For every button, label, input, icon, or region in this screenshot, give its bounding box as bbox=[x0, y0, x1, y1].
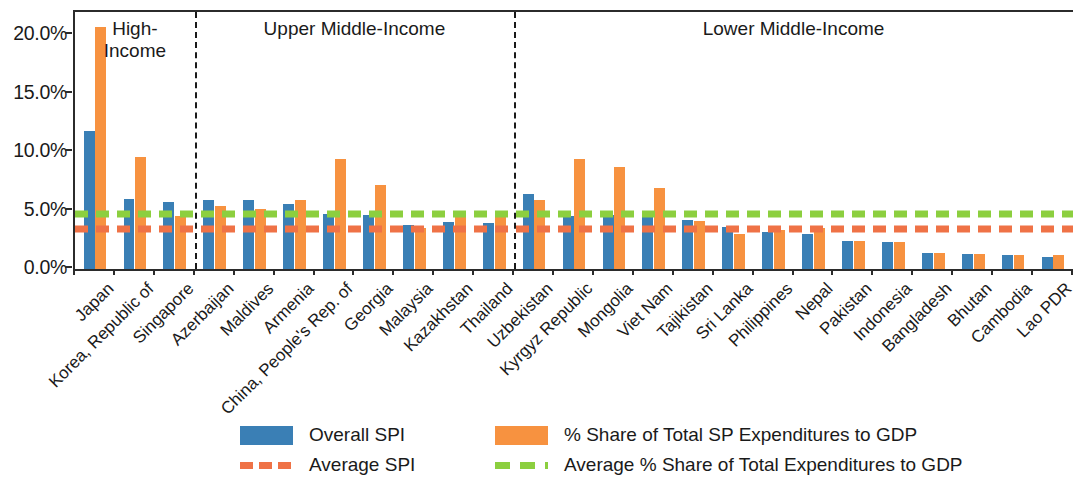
y-axis-tick-label: 5.0% bbox=[24, 197, 67, 220]
bar-overall-spi bbox=[762, 232, 773, 269]
bar-share-expenditures bbox=[734, 234, 745, 269]
x-axis-tick-mark bbox=[153, 269, 155, 275]
bar-overall-spi bbox=[603, 215, 614, 269]
y-axis-tick-label: 15.0% bbox=[13, 80, 67, 103]
chart-legend: Overall SPI % Share of Total SP Expendit… bbox=[240, 420, 1000, 480]
x-axis-tick-mark bbox=[831, 269, 833, 275]
x-axis-tick-mark bbox=[991, 269, 993, 275]
x-axis-tick-mark bbox=[592, 269, 594, 275]
bar-share-expenditures bbox=[814, 228, 825, 269]
x-axis-tick-mark bbox=[313, 269, 315, 275]
bar-overall-spi bbox=[722, 227, 733, 269]
bar-share-expenditures bbox=[495, 216, 506, 269]
bar-overall-spi bbox=[962, 254, 973, 269]
legend-label-average-share: Average % Share of Total Expenditures to… bbox=[564, 454, 963, 476]
x-axis-tick-mark bbox=[712, 269, 714, 275]
bar-share-expenditures bbox=[175, 216, 186, 269]
legend-row-1: Overall SPI % Share of Total SP Expendit… bbox=[240, 420, 1000, 450]
bar-share-expenditures bbox=[1014, 255, 1025, 269]
bar-overall-spi bbox=[363, 215, 374, 269]
income-group-label: Lower Middle-Income bbox=[514, 18, 1073, 40]
bar-overall-spi bbox=[563, 216, 574, 269]
bar-overall-spi bbox=[1042, 257, 1053, 269]
bar-overall-spi bbox=[124, 199, 135, 269]
x-axis-tick-mark bbox=[392, 269, 394, 275]
legend-item-average-spi: Average SPI bbox=[240, 454, 495, 476]
income-group-divider bbox=[195, 12, 197, 269]
bar-share-expenditures bbox=[415, 228, 426, 269]
legend-item-overall-spi: Overall SPI bbox=[240, 424, 495, 446]
y-axis-tick-label: 0.0% bbox=[24, 256, 67, 279]
bar-share-expenditures bbox=[934, 253, 945, 269]
bar-share-expenditures bbox=[974, 254, 985, 269]
green-dashed-line-swatch-icon bbox=[495, 462, 548, 469]
orange-dashed-line-swatch-icon bbox=[240, 462, 293, 469]
legend-item-average-share: Average % Share of Total Expenditures to… bbox=[495, 454, 963, 476]
bar-share-expenditures bbox=[1053, 255, 1064, 269]
bar-overall-spi bbox=[1002, 255, 1013, 269]
x-axis-tick-mark bbox=[911, 269, 913, 275]
income-group-label: Upper Middle-Income bbox=[195, 18, 514, 40]
y-axis-tick-label: 10.0% bbox=[13, 139, 67, 162]
x-axis-tick-mark bbox=[672, 269, 674, 275]
y-axis-tick-label: 20.0% bbox=[13, 22, 67, 45]
y-axis-tick-mark bbox=[65, 91, 72, 93]
average-line-spi bbox=[75, 226, 1073, 233]
x-axis-tick-mark bbox=[552, 269, 554, 275]
x-axis-tick-mark bbox=[352, 269, 354, 275]
bar-share-expenditures bbox=[614, 167, 625, 269]
x-axis-tick-mark bbox=[273, 269, 275, 275]
x-axis-tick-mark bbox=[871, 269, 873, 275]
legend-row-2: Average SPI Average % Share of Total Exp… bbox=[240, 450, 1000, 480]
income-group-divider bbox=[514, 12, 516, 269]
bar-overall-spi bbox=[84, 131, 95, 269]
x-axis-tick-mark bbox=[193, 269, 195, 275]
y-axis-tick-mark bbox=[65, 32, 72, 34]
bar-overall-spi bbox=[922, 253, 933, 269]
bar-share-expenditures bbox=[255, 209, 266, 269]
income-group-label: High- Income bbox=[75, 18, 195, 63]
x-axis-tick-mark bbox=[73, 269, 75, 275]
bar-overall-spi bbox=[323, 214, 334, 269]
x-axis-tick-mark bbox=[951, 269, 953, 275]
bar-overall-spi bbox=[882, 242, 893, 269]
x-axis-tick-mark bbox=[432, 269, 434, 275]
bar-share-expenditures bbox=[455, 214, 466, 269]
legend-label-overall-spi: Overall SPI bbox=[309, 424, 405, 446]
legend-label-average-spi: Average SPI bbox=[309, 454, 415, 476]
x-axis-tick-mark bbox=[472, 269, 474, 275]
y-axis-tick-mark bbox=[65, 208, 72, 210]
bar-share-expenditures bbox=[774, 230, 785, 269]
x-axis-tick-mark bbox=[792, 269, 794, 275]
x-axis-tick-mark bbox=[512, 269, 514, 275]
bar-overall-spi bbox=[642, 216, 653, 269]
x-axis-tick-mark bbox=[113, 269, 115, 275]
bar-share-expenditures bbox=[854, 241, 865, 269]
y-axis-tick-mark bbox=[65, 266, 72, 268]
bar-share-expenditures bbox=[894, 242, 905, 269]
legend-label-share-expenditures: % Share of Total SP Expenditures to GDP bbox=[564, 424, 917, 446]
x-axis-tick-mark bbox=[632, 269, 634, 275]
orange-bar-swatch-icon bbox=[495, 426, 548, 445]
plot-area: High- IncomeUpper Middle-IncomeLower Mid… bbox=[73, 10, 1073, 271]
y-axis-tick-mark bbox=[65, 149, 72, 151]
x-axis-tick-mark bbox=[1071, 269, 1073, 275]
plot-inner: High- IncomeUpper Middle-IncomeLower Mid… bbox=[75, 12, 1073, 269]
x-axis-tick-mark bbox=[752, 269, 754, 275]
bar-overall-spi bbox=[842, 241, 853, 269]
chart-figure: 0.0%5.0%10.0%15.0%20.0% High- IncomeUppe… bbox=[0, 0, 1077, 490]
x-axis-tick-mark bbox=[233, 269, 235, 275]
legend-item-share-expenditures: % Share of Total SP Expenditures to GDP bbox=[495, 424, 917, 446]
average-line-share bbox=[75, 211, 1073, 218]
blue-bar-swatch-icon bbox=[240, 426, 293, 445]
x-axis-tick-mark bbox=[1031, 269, 1033, 275]
bar-overall-spi bbox=[802, 234, 813, 269]
